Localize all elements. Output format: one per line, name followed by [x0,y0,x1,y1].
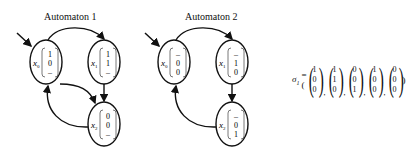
input-sequence: σ1 =( (100), (110), (001), (100), (000) … [292,63,406,97]
state-label: x0 [32,58,40,69]
edge-x0-x1 [176,28,232,40]
automaton-2 [145,28,248,146]
sequence-vector: (001) [347,63,363,97]
vector-value: 1 [48,50,52,59]
vector-value: 0 [106,121,110,130]
automaton-1 [17,28,120,146]
vector-value: 0 [176,68,180,77]
state-label: x1 [90,58,98,69]
vector-value: – [233,50,239,59]
edge-x2-x0 [175,86,216,127]
edge-x0-x2 [60,84,95,103]
edge-x0-x1 [48,28,104,40]
vector-value: – [105,130,111,139]
vector-value: – [175,50,181,59]
vector-value: 0 [234,68,238,77]
vector-value: 0 [106,112,110,121]
vector-value: 0 [176,59,180,68]
initial-arrow [17,33,31,46]
state-label: x0 [160,58,168,69]
vector-value: 0 [48,59,52,68]
state-label: x1 [218,58,226,69]
vector-value: – [233,112,239,121]
initial-arrow [145,33,159,46]
vector-value: – [105,68,111,77]
state-label: x2 [218,120,226,131]
vector-value: 1 [234,130,238,139]
sequence-vector: (100) [367,63,383,97]
vector-value: 0 [234,121,238,130]
edge-x2-x0 [47,86,88,127]
sequence-vector: (110) [327,63,343,97]
sequence-symbol: σ1 [292,74,299,86]
vector-value: 1 [234,59,238,68]
state-label: x2 [90,120,98,131]
vector-value: – [47,68,53,77]
vector-value: 1 [106,59,110,68]
vector-value: 1 [106,50,110,59]
sequence-vector: (100) [307,63,323,97]
sequence-vector: (000) [387,63,403,97]
